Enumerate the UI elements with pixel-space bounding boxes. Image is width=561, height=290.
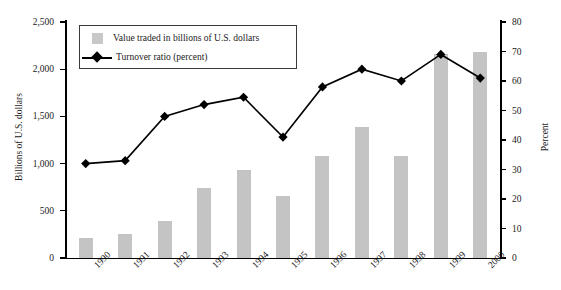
y-tick-label-right: 50: [508, 106, 548, 116]
y-tick-label-right: 60: [508, 76, 548, 86]
x-axis-label-1997: 1997: [368, 263, 375, 270]
legend-line-diamond-icon: [82, 52, 112, 63]
x-axis-label-1995: 1995: [289, 263, 296, 270]
y-tick-label-left: 0: [0, 253, 58, 263]
legend-label-turnover-ratio: Turnover ratio (percent): [116, 52, 207, 62]
chart-container: Billions of U.S. dollars Percent 05001,0…: [0, 0, 561, 290]
x-axis-label-1993: 1993: [210, 263, 217, 270]
y-tick-label-right: 30: [508, 165, 548, 175]
y-tick-label-right: 70: [508, 47, 548, 57]
y-tick-right: [501, 110, 506, 111]
y-tick-label-right: 0: [508, 253, 548, 263]
turnover-ratio-line: [86, 54, 481, 163]
marker-1999: [436, 50, 445, 59]
y-tick-left: [60, 257, 65, 258]
legend-swatch-icon: [92, 33, 103, 44]
x-axis-label-1990: 1990: [92, 263, 99, 270]
y-tick-label-right: 80: [508, 17, 548, 27]
x-axis-label-1994: 1994: [250, 263, 257, 270]
y-tick-left: [60, 210, 65, 211]
x-axis-label-1992: 1992: [171, 263, 178, 270]
y-tick-right: [501, 169, 506, 170]
y-tick-label-left: 500: [0, 206, 58, 216]
x-axis-label-2000: 2000: [486, 263, 493, 270]
y-tick-right: [501, 228, 506, 229]
y-tick-left: [60, 116, 65, 117]
y-tick-right: [501, 198, 506, 199]
marker-1993: [199, 100, 208, 109]
marker-2000: [476, 73, 485, 82]
y-tick-right: [501, 139, 506, 140]
y-tick-left: [60, 69, 65, 70]
y-tick-label-right: 10: [508, 224, 548, 234]
legend-label-value-traded: Value traded in billions of U.S. dollars: [113, 33, 259, 43]
legend: Value traded in billions of U.S. dollars…: [79, 25, 297, 69]
y-tick-label-left: 2,000: [0, 64, 58, 74]
y-tick-right: [501, 51, 506, 52]
x-axis-label-1999: 1999: [447, 263, 454, 270]
y-tick-label-right: 20: [508, 194, 548, 204]
x-axis-label-1998: 1998: [407, 263, 414, 270]
marker-1998: [397, 76, 406, 85]
x-axis-label-1996: 1996: [328, 263, 335, 270]
marker-1997: [357, 65, 366, 74]
y-tick-right: [501, 80, 506, 81]
marker-1990: [81, 159, 90, 168]
y-tick-label-right: 40: [508, 135, 548, 145]
y-tick-left: [60, 21, 65, 22]
y-tick-label-left: 1,000: [0, 159, 58, 169]
legend-item-turnover-ratio: Turnover ratio (percent): [80, 48, 296, 66]
legend-item-value-traded: Value traded in billions of U.S. dollars: [80, 29, 296, 47]
y-tick-label-left: 2,500: [0, 17, 58, 27]
y-tick-left: [60, 163, 65, 164]
x-axis-label-1991: 1991: [131, 263, 138, 270]
y-tick-right: [501, 21, 506, 22]
y-axis-left-title: Billions of U.S. dollars: [14, 72, 24, 202]
y-tick-label-left: 1,500: [0, 111, 58, 121]
